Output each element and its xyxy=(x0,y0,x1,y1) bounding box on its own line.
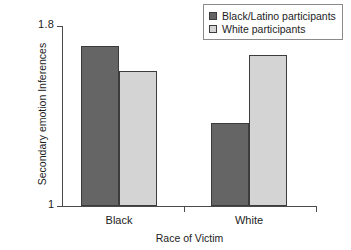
legend: Black/Latino participants White particip… xyxy=(203,4,343,40)
bar-white-blacklatino xyxy=(211,123,249,206)
legend-swatch-icon-white xyxy=(209,25,217,33)
y-axis-title: Secondary emotion Inferences xyxy=(36,24,48,204)
bar-white-white xyxy=(249,55,287,206)
x-axis-title: Race of Victim xyxy=(62,232,317,244)
legend-item-blacklatino: Black/Latino participants xyxy=(209,9,336,22)
x-axis-category-label-black: Black xyxy=(74,214,164,226)
legend-item-white: White participants xyxy=(209,22,336,35)
x-axis-tick-end xyxy=(316,207,317,212)
y-axis-line xyxy=(62,26,63,206)
legend-label-blacklatino: Black/Latino participants xyxy=(222,10,336,22)
y-axis-tick-max xyxy=(57,26,62,27)
x-axis-category-label-white: White xyxy=(204,214,294,226)
legend-swatch-icon-blacklatino xyxy=(209,12,217,20)
legend-label-white: White participants xyxy=(222,23,305,35)
bar-black-white xyxy=(119,71,157,206)
bar-chart: 1.8 1 Secondary emotion Inferences Black… xyxy=(0,0,351,250)
x-axis-line xyxy=(62,206,317,207)
x-axis-tick-mid xyxy=(184,207,185,212)
bar-black-blacklatino xyxy=(81,46,119,206)
